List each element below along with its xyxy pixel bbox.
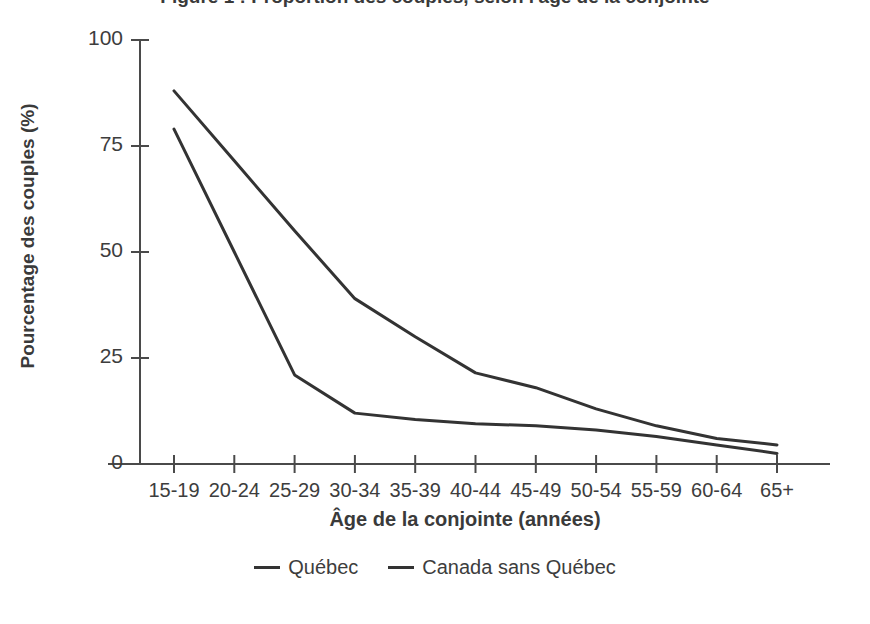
legend-line-swatch-icon	[388, 566, 414, 569]
y-axis-label: Pourcentage des couples (%)	[17, 56, 39, 416]
series-lines-group	[174, 91, 777, 454]
legend-line-swatch-icon	[254, 566, 280, 569]
y-tick-label: 50	[63, 238, 123, 262]
chart-legend: QuébecCanada sans Québec	[0, 556, 870, 579]
series-line-2	[174, 129, 777, 453]
legend-label: Canada sans Québec	[422, 556, 615, 579]
x-tick-label: 65+	[737, 479, 817, 502]
axes-group	[108, 40, 830, 464]
y-tick-label: 100	[63, 26, 123, 50]
legend-label: Québec	[288, 556, 358, 579]
y-tick-label: 25	[63, 344, 123, 368]
legend-entry-1[interactable]: Québec	[254, 556, 358, 579]
y-tick-label: 75	[63, 132, 123, 156]
legend-entry-2[interactable]: Canada sans Québec	[388, 556, 615, 579]
series-line-1	[174, 91, 777, 445]
chart-figure: Figure 1 : Proportion des couples, selon…	[0, 0, 870, 624]
x-axis-label: Âge de la conjointe (années)	[135, 508, 795, 531]
y-tick-label: 0	[63, 450, 123, 474]
